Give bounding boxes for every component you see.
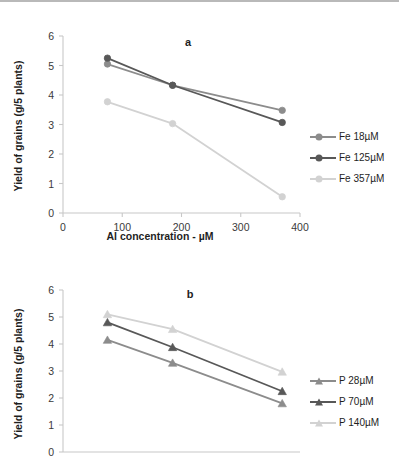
y-tick-label: 4 xyxy=(48,338,54,350)
top-divider xyxy=(0,0,399,2)
y-tick-label: 6 xyxy=(48,284,54,296)
legend-triangle-marker-icon xyxy=(315,419,323,426)
y-tick-label: 0 xyxy=(48,207,54,219)
x-axis-title: Al concentration - µM xyxy=(107,230,214,242)
y-tick-label: 2 xyxy=(48,392,54,404)
series-line xyxy=(107,322,282,391)
legend-item[interactable]: P 70µM xyxy=(310,391,379,412)
legend-line xyxy=(310,401,336,403)
legend-swatch xyxy=(310,417,336,429)
legend-label: Fe 357µM xyxy=(339,174,384,184)
y-axis-title: Yield of grains (g/5 plants) xyxy=(12,309,24,440)
legend-circle-marker-icon xyxy=(316,154,323,161)
legend-circle-marker-icon xyxy=(316,175,323,182)
y-tick-label: 1 xyxy=(48,419,54,431)
data-point-marker xyxy=(104,61,110,67)
legend-line xyxy=(310,380,336,382)
legend-triangle-marker-icon xyxy=(315,398,323,405)
legend-b: P 28µMP 70µMP 140µM xyxy=(310,370,379,433)
y-tick-label: 3 xyxy=(48,365,54,377)
data-point-marker xyxy=(103,336,111,343)
x-tick-label: 0 xyxy=(60,221,66,233)
series-line xyxy=(107,314,282,372)
legend-item[interactable]: Fe 125µM xyxy=(310,147,384,168)
legend-label: Fe 125µM xyxy=(339,153,384,163)
legend-swatch xyxy=(310,152,336,164)
x-tick-label: 400 xyxy=(291,221,309,233)
y-tick-label: 5 xyxy=(48,311,54,323)
legend-line xyxy=(310,422,336,424)
legend-label: P 28µM xyxy=(339,376,373,386)
data-point-marker xyxy=(104,55,110,61)
legend-label: Fe 18µM xyxy=(339,132,379,142)
y-tick-label: 2 xyxy=(48,148,54,160)
series-line xyxy=(107,102,282,197)
y-tick-label: 6 xyxy=(48,30,54,42)
y-tick-label: 5 xyxy=(48,60,54,72)
data-point-marker xyxy=(169,120,175,126)
data-point-marker xyxy=(279,194,285,200)
legend-item[interactable]: P 28µM xyxy=(310,370,379,391)
chart-panel-b: 0123456Yield of grains (g/5 plants)b P 2… xyxy=(0,262,399,458)
data-point-marker xyxy=(279,107,285,113)
legend-triangle-marker-icon xyxy=(315,377,323,384)
legend-label: P 70µM xyxy=(339,397,373,407)
legend-item[interactable]: P 140µM xyxy=(310,412,379,433)
legend-swatch xyxy=(310,396,336,408)
legend-label: P 140µM xyxy=(339,418,379,428)
data-point-marker xyxy=(103,318,111,325)
legend-line xyxy=(310,178,336,180)
legend-item[interactable]: Fe 357µM xyxy=(310,168,384,189)
legend-swatch xyxy=(310,173,336,185)
y-tick-label: 1 xyxy=(48,178,54,190)
legend-a: Fe 18µMFe 125µMFe 357µM xyxy=(310,126,384,189)
legend-circle-marker-icon xyxy=(316,133,323,140)
legend-line xyxy=(310,136,336,138)
legend-item[interactable]: Fe 18µM xyxy=(310,126,384,147)
legend-swatch xyxy=(310,131,336,143)
series-line xyxy=(107,64,282,110)
y-tick-label: 3 xyxy=(48,119,54,131)
x-tick-label: 300 xyxy=(232,221,250,233)
y-tick-label: 0 xyxy=(48,446,54,458)
panel-label: b xyxy=(187,288,194,300)
series-line xyxy=(107,340,282,403)
panel-label: a xyxy=(185,36,192,48)
data-point-marker xyxy=(103,310,111,317)
legend-line xyxy=(310,157,336,159)
y-tick-label: 4 xyxy=(48,89,54,101)
chart-panel-a: 01234560100200300400Al concentration - µ… xyxy=(0,8,399,248)
legend-swatch xyxy=(310,375,336,387)
y-axis-title: Yield of grains (g/5 plants) xyxy=(12,61,24,192)
data-point-marker xyxy=(279,119,285,125)
data-point-marker xyxy=(169,82,175,88)
data-point-marker xyxy=(104,99,110,105)
